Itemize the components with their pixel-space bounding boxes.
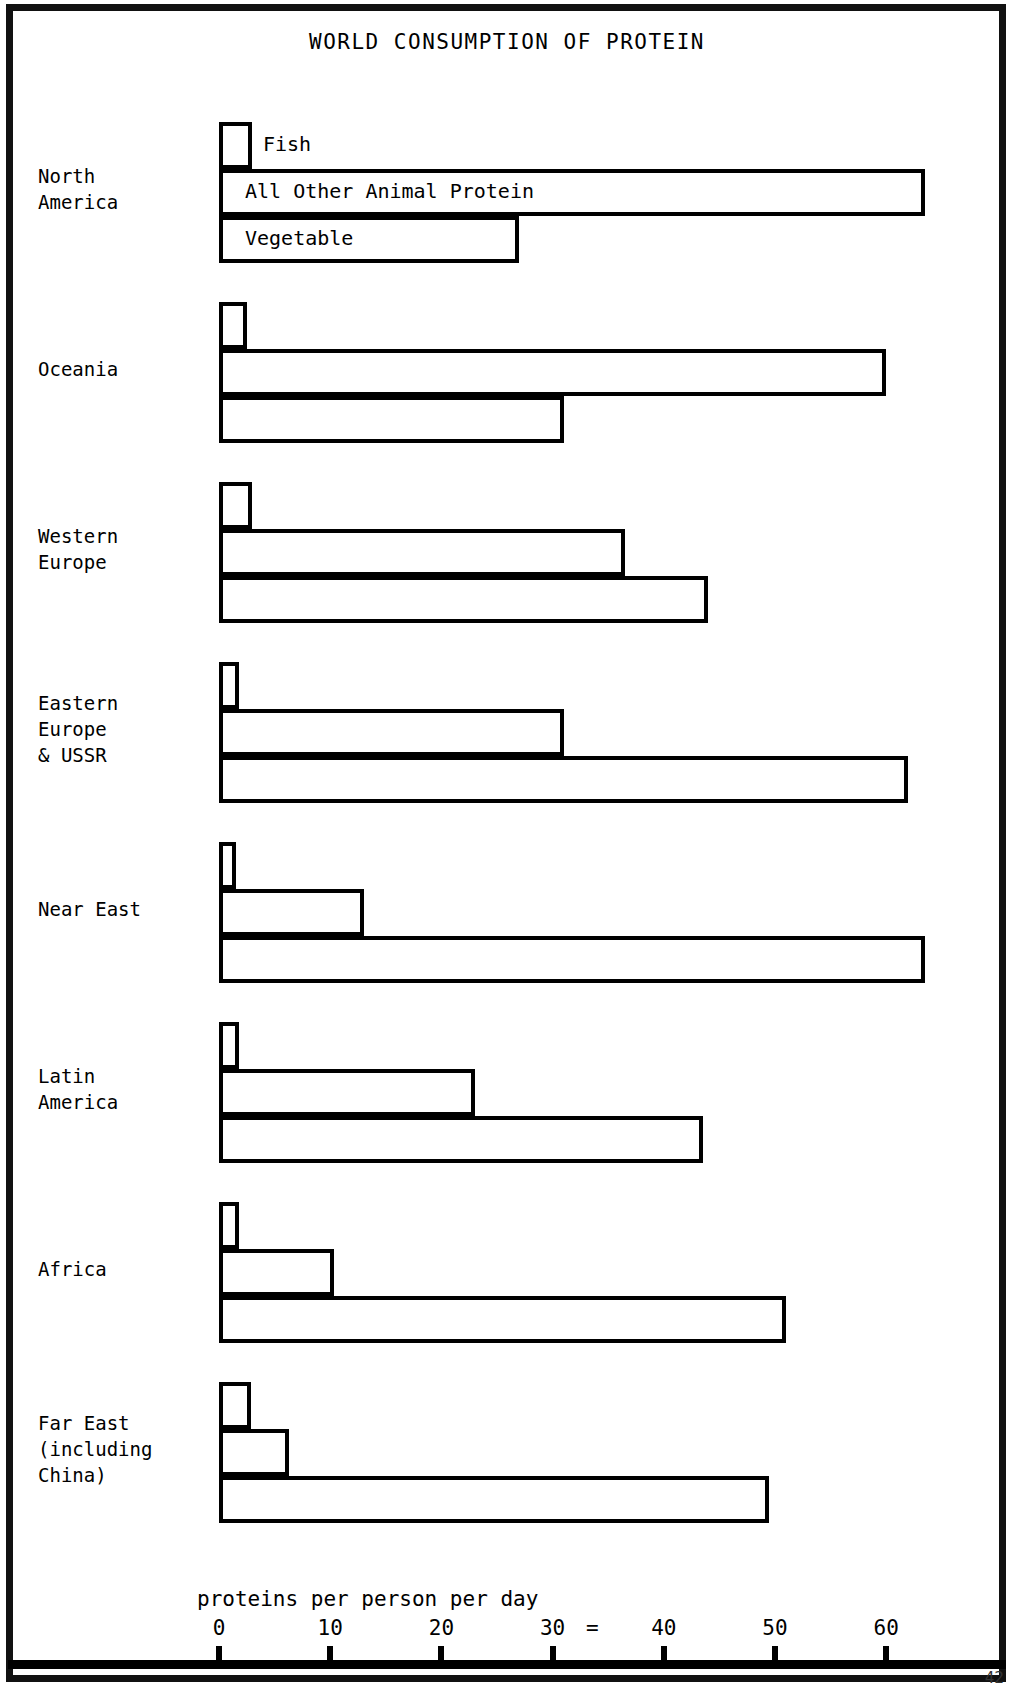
category-label: Africa (38, 1256, 213, 1282)
category-label: Near East (38, 896, 213, 922)
bar-vegetable (219, 756, 908, 803)
category-label: Western Europe (38, 523, 213, 575)
bar-fish (219, 482, 252, 529)
bar-vegetable (219, 576, 708, 623)
bar-all-other-animal-protein (219, 1069, 475, 1116)
x-axis-label: proteins per person per day (197, 1587, 538, 1611)
bar-vegetable (219, 1116, 703, 1163)
legend-label-0: Fish (263, 132, 311, 156)
category-label: Eastern Europe & USSR (38, 690, 213, 768)
category-label: Latin America (38, 1063, 213, 1115)
x-axis-tick (216, 1646, 222, 1662)
bar-all-other-animal-protein (219, 349, 886, 396)
x-axis-tick-label: 60 (856, 1616, 916, 1640)
bar-all-other-animal-protein (219, 529, 625, 576)
x-axis-tick-label: 30 (523, 1616, 583, 1640)
x-axis-tick-label: 50 (745, 1616, 805, 1640)
bar-fish (219, 122, 252, 169)
bar-chart-plot-area: North AmericaFishAll Other Animal Protei… (0, 0, 1014, 1685)
bar-vegetable (219, 936, 925, 983)
bar-fish (219, 1382, 251, 1429)
x-axis-line (8, 1660, 1006, 1669)
x-axis-tick (661, 1646, 667, 1662)
x-axis-tick (772, 1646, 778, 1662)
legend-label-2: Vegetable (245, 226, 353, 250)
x-axis-tick-label: 0 (189, 1616, 249, 1640)
bar-fish (219, 1202, 239, 1249)
bar-fish (219, 1022, 239, 1069)
bar-vegetable (219, 1296, 786, 1343)
category-label: North America (38, 163, 213, 215)
x-axis-tick-label: 40 (634, 1616, 694, 1640)
page-number: 42 (985, 1668, 1004, 1685)
x-axis-tick-label: 20 (411, 1616, 471, 1640)
x-axis-tick-label: 10 (300, 1616, 360, 1640)
bar-fish (219, 842, 236, 889)
x-axis-tick (327, 1646, 333, 1662)
bar-vegetable (219, 1476, 769, 1523)
category-label: Oceania (38, 356, 213, 382)
x-axis-tick (438, 1646, 444, 1662)
axis-annotation-equals: = (586, 1616, 599, 1640)
x-axis-tick (550, 1646, 556, 1662)
bar-fish (219, 662, 239, 709)
bar-all-other-animal-protein (219, 1429, 289, 1476)
bar-all-other-animal-protein (219, 889, 364, 936)
bar-all-other-animal-protein (219, 1249, 334, 1296)
bar-vegetable (219, 396, 564, 443)
category-label: Far East (including China) (38, 1410, 213, 1488)
bar-all-other-animal-protein (219, 709, 564, 756)
x-axis-tick (883, 1646, 889, 1662)
scanned-page: WORLD CONSUMPTION OF PROTEIN North Ameri… (0, 0, 1014, 1685)
legend-label-1: All Other Animal Protein (245, 179, 534, 203)
bar-fish (219, 302, 247, 349)
